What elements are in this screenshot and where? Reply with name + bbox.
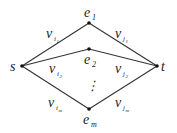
svg-text:v: v — [46, 26, 53, 41]
svg-text:v: v — [115, 95, 122, 110]
label-e1: e 1 — [84, 5, 96, 22]
label-edge-s-em: v i m — [48, 95, 63, 113]
svg-text:1: 1 — [92, 13, 96, 22]
label-e2: e 2 — [84, 52, 96, 69]
svg-text:v: v — [115, 26, 122, 41]
label-edge-s-e2: v i 2 — [49, 61, 63, 79]
node-em — [87, 107, 91, 111]
label-edge-e2-t: v j 2 — [115, 61, 129, 79]
svg-text:2: 2 — [60, 74, 63, 79]
svg-text:v: v — [49, 61, 56, 76]
edge-e1-t — [89, 23, 157, 66]
label-edge-em-t: v j m — [115, 95, 130, 113]
ellipsis: ⋮ — [86, 78, 99, 93]
node-e2 — [87, 47, 91, 51]
svg-text:1: 1 — [126, 39, 129, 44]
svg-text:v: v — [48, 95, 55, 110]
label-em: e m — [83, 112, 97, 129]
svg-text:v: v — [115, 61, 122, 76]
edge-e2-t — [89, 49, 157, 66]
svg-text:e: e — [84, 52, 90, 67]
svg-text:e: e — [83, 112, 89, 127]
edge-s-em — [22, 66, 89, 109]
edge-s-e2 — [22, 49, 89, 66]
svg-text:1: 1 — [57, 39, 60, 44]
svg-text:2: 2 — [126, 74, 129, 79]
label-t: t — [161, 59, 166, 74]
node-s — [20, 64, 24, 68]
node-e1 — [87, 21, 91, 25]
label-s: s — [10, 59, 16, 74]
svg-text:e: e — [84, 5, 90, 20]
svg-text:m: m — [91, 120, 97, 129]
svg-text:2: 2 — [92, 60, 96, 69]
label-edge-s-e1: v i 1 — [46, 26, 59, 44]
svg-text:m: m — [59, 108, 63, 113]
graph-diagram: ⋮ s t e 1 e 2 e m v i 1 v j 1 v i 2 v j … — [0, 0, 177, 133]
edge-s-e1 — [22, 23, 89, 66]
node-t — [155, 64, 159, 68]
svg-text:m: m — [126, 108, 130, 113]
